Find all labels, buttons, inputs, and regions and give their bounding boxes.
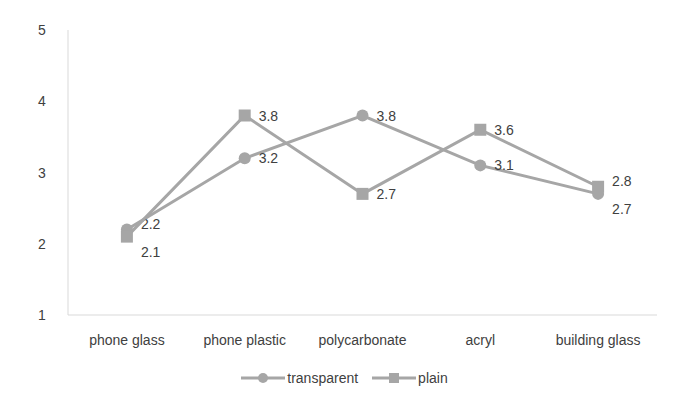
data-point <box>357 110 369 122</box>
data-point <box>239 110 251 122</box>
series-layer: 2.23.23.83.12.72.13.82.73.62.8 <box>121 108 632 260</box>
data-label: 2.8 <box>612 173 632 189</box>
square-marker-icon <box>372 371 416 385</box>
data-label: 3.2 <box>259 150 279 166</box>
y-tick-label: 1 <box>38 307 46 323</box>
data-point <box>357 188 369 200</box>
legend: transparent plain <box>0 370 689 386</box>
data-label: 2.7 <box>377 186 397 202</box>
data-label: 3.1 <box>494 157 514 173</box>
legend-item-plain: plain <box>372 370 448 386</box>
data-point <box>474 159 486 171</box>
legend-label: transparent <box>287 370 358 386</box>
data-label: 3.8 <box>377 108 397 124</box>
legend-label: plain <box>418 370 448 386</box>
legend-item-transparent: transparent <box>241 370 358 386</box>
y-tick-label: 3 <box>38 165 46 181</box>
data-point <box>121 231 133 243</box>
x-tick-label: polycarbonate <box>319 332 407 348</box>
data-label: 3.6 <box>494 122 514 138</box>
y-tick-label: 5 <box>38 22 46 38</box>
data-point <box>592 181 604 193</box>
y-axis: 12345 <box>38 22 68 323</box>
data-label: 2.1 <box>141 244 161 260</box>
x-axis: phone glassphone plasticpolycarbonateacr… <box>68 315 657 348</box>
line-chart: 12345 phone glassphone plasticpolycarbon… <box>0 0 689 406</box>
data-point <box>239 152 251 164</box>
data-label: 3.8 <box>259 108 279 124</box>
x-tick-label: phone plastic <box>203 332 286 348</box>
y-tick-label: 4 <box>38 93 46 109</box>
data-point <box>474 124 486 136</box>
y-tick-label: 2 <box>38 236 46 252</box>
series-transparent: 2.23.23.83.12.7 <box>121 108 632 236</box>
x-tick-label: building glass <box>556 332 641 348</box>
x-tick-label: acryl <box>466 332 496 348</box>
series-line <box>127 116 598 230</box>
circle-marker-icon <box>241 371 285 385</box>
x-tick-label: phone glass <box>89 332 165 348</box>
data-label: 2.7 <box>612 201 632 217</box>
